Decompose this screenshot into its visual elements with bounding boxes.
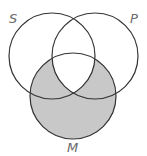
- venn-diagram: S P M: [0, 0, 147, 156]
- label-s: S: [9, 11, 17, 26]
- label-m: M: [67, 140, 78, 155]
- label-p: P: [130, 11, 138, 26]
